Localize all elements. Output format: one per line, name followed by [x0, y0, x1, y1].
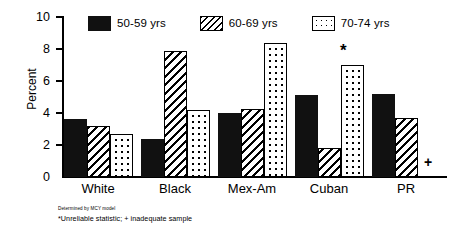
- plus-marker-pr: +: [424, 155, 432, 169]
- bar-black-50-59: [141, 139, 164, 177]
- bar-cuban-60-69: [318, 148, 341, 177]
- bar-black-70-74: [187, 110, 210, 177]
- bar-pr-60-69: [395, 118, 418, 177]
- bar-white-60-69: [87, 126, 110, 177]
- bars-layer: [0, 0, 460, 177]
- asterisk-marker-cuban: *: [340, 42, 347, 59]
- bar-mexam-50-59: [218, 113, 241, 177]
- bar-white-50-59: [64, 119, 87, 177]
- bar-pr-50-59: [372, 94, 395, 177]
- bar-chart: 50-59 yrs 60-69 yrs 70-74 yrs 10 8 6 4 2…: [0, 0, 460, 234]
- x-label-white: White: [58, 181, 138, 196]
- bar-cuban-70-74: [341, 65, 364, 177]
- bar-white-70-74: [110, 134, 133, 177]
- x-label-black: Black: [135, 181, 215, 196]
- footnote-line-1: Determined by MCY model: [58, 206, 192, 212]
- chart-footnotes: Determined by MCY model *Unreliable stat…: [58, 206, 192, 223]
- bar-black-60-69: [164, 51, 187, 177]
- bar-mexam-60-69: [241, 109, 264, 177]
- x-label-mexam: Mex-Am: [212, 181, 292, 196]
- footnote-line-2: *Unreliable statistic; + inadequate samp…: [58, 214, 192, 223]
- bar-cuban-50-59: [295, 95, 318, 177]
- x-label-pr: PR: [366, 181, 446, 196]
- x-label-cuban: Cuban: [289, 181, 369, 196]
- bar-mexam-70-74: [264, 43, 287, 177]
